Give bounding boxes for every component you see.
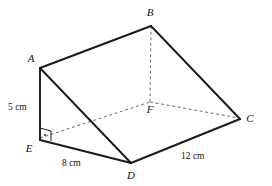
solid-edges-group <box>40 26 240 163</box>
edge-A-B <box>40 26 151 68</box>
edge-E-D <box>40 140 131 163</box>
vertex-label-A: A <box>27 52 35 64</box>
hidden-edge-B-F <box>150 26 151 102</box>
edge-A-D <box>40 68 131 163</box>
measurement-labels-group: 5 cm 8 cm 12 cm <box>8 102 205 168</box>
vertex-label-B: B <box>147 6 154 18</box>
prism-diagram: A B C D E F 5 cm 8 cm 12 cm <box>0 0 272 186</box>
measurement-label-width: 12 cm <box>181 151 205 161</box>
vertex-label-C: C <box>246 112 254 124</box>
right-angle-marker <box>40 128 51 141</box>
hidden-edge-E-F <box>40 102 150 138</box>
vertex-label-E: E <box>25 142 33 154</box>
right-angle-dot <box>44 134 46 136</box>
measurement-label-depth: 8 cm <box>62 158 81 168</box>
vertex-label-D: D <box>126 169 135 181</box>
vertex-labels-group: A B C D E F <box>25 6 255 181</box>
edge-B-C <box>151 26 240 119</box>
measurement-label-height: 5 cm <box>8 102 27 112</box>
hidden-edges-group <box>40 26 239 138</box>
vertex-label-F: F <box>146 103 154 115</box>
